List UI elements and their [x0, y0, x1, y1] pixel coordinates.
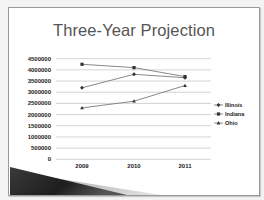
- legend-item-indiana: Indiana: [214, 111, 245, 117]
- legend-label: Illinois: [225, 102, 242, 108]
- legend-item-illinois: Illinois: [214, 102, 242, 108]
- x-tick-label: 2010: [127, 163, 141, 169]
- diamond-marker-icon: [80, 86, 84, 90]
- y-tick-label: 1500000: [28, 123, 52, 129]
- y-tick-label: 3000000: [28, 89, 52, 95]
- triangle-marker-icon: [183, 84, 187, 87]
- chart-legend: IllinoisIndianaOhio: [214, 102, 245, 126]
- y-axis-labels: 4500000400000035000003000000250000020000…: [28, 56, 52, 163]
- y-tick-label: 4500000: [28, 56, 52, 62]
- y-tick-label: 3500000: [28, 78, 52, 84]
- y-tick-label: 0: [48, 156, 52, 162]
- square-marker-icon: [132, 66, 135, 69]
- series-ohio: [80, 84, 187, 110]
- y-tick-label: 2000000: [28, 112, 52, 118]
- y-tick-label: 1000000: [28, 134, 52, 140]
- x-tick-label: 2011: [178, 163, 192, 169]
- line-chart: 4500000400000035000003000000250000020000…: [9, 8, 259, 195]
- square-marker-icon: [183, 75, 186, 78]
- y-tick-label: 4000000: [28, 67, 52, 73]
- presentation-slide: Three-Year Projection 450000040000003500…: [8, 7, 260, 196]
- legend-label: Indiana: [225, 111, 245, 117]
- y-tick-label: 2500000: [28, 100, 52, 106]
- x-axis-labels: 200920102011: [75, 163, 192, 169]
- diamond-marker-icon: [132, 72, 136, 76]
- series-indiana: [80, 63, 186, 78]
- x-tick-label: 2009: [75, 163, 89, 169]
- square-marker-icon: [80, 63, 83, 66]
- legend-item-ohio: Ohio: [214, 120, 238, 126]
- legend-label: Ohio: [225, 120, 238, 126]
- diamond-marker-icon: [217, 103, 221, 107]
- y-tick-label: 500000: [31, 145, 52, 151]
- square-marker-icon: [217, 112, 220, 115]
- decorative-corner-wedge: [10, 167, 161, 195]
